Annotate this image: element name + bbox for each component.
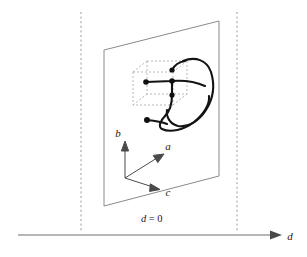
axis-c-arrowhead xyxy=(150,184,160,192)
cube-back-face xyxy=(147,61,187,94)
figure-root: b a c d= 0 d xyxy=(0,0,307,257)
coordinate-triad xyxy=(121,141,164,191)
endpoint-lower-left xyxy=(144,117,150,123)
node-center xyxy=(169,78,175,84)
cube-front-face xyxy=(133,72,173,105)
plane-label-relation: = 0 xyxy=(149,213,163,224)
d-axis-label: d xyxy=(287,230,293,242)
curve-chord-horizontal xyxy=(146,81,205,86)
dashed-cube xyxy=(133,61,187,105)
axis-b-arrowhead xyxy=(121,141,128,151)
plane-label: d= 0 xyxy=(141,213,163,224)
cube-edge-tl xyxy=(133,61,147,72)
axis-a-arrowhead xyxy=(153,154,164,163)
axis-label-c: c xyxy=(166,186,171,198)
axis-a-line xyxy=(125,158,157,178)
node-lower xyxy=(169,92,174,97)
axis-label-a: a xyxy=(165,140,171,152)
d-axis-arrowhead xyxy=(270,231,282,240)
endpoint-left-in-box xyxy=(143,79,149,85)
axis-c-line xyxy=(125,178,153,187)
curve-lower-tail xyxy=(147,120,167,124)
node-upper xyxy=(169,67,174,72)
axis-label-b: b xyxy=(115,127,121,139)
strand-dots xyxy=(143,67,175,123)
figure-canvas: b a c d= 0 d xyxy=(0,0,307,257)
cube-edge-bl xyxy=(133,94,147,105)
knotted-strand xyxy=(146,59,213,131)
cube-edge-br xyxy=(173,94,187,105)
d-axis xyxy=(18,231,282,240)
plane-label-symbol: d xyxy=(141,213,147,224)
